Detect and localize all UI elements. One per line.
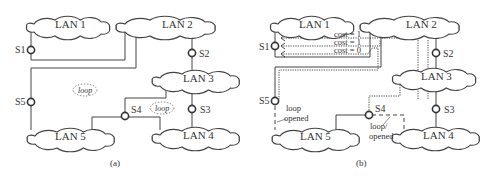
switch-s4-label-b: S4: [375, 103, 386, 114]
loop-opened-label-1b: opened: [284, 113, 309, 123]
loop-opened-label-1a: loop: [286, 103, 301, 113]
lan-2-label-b: LAN 2: [406, 18, 437, 30]
caption-a: (a): [110, 158, 120, 168]
loop-opened-label-2b: opened: [369, 131, 394, 141]
lan-2-label: LAN 2: [162, 18, 193, 30]
lan-4-label-b: LAN 4: [423, 129, 454, 141]
lan-5-label: LAN 5: [55, 130, 86, 142]
switch-s2-label: S2: [199, 48, 210, 59]
switch-s4-label: S4: [131, 104, 142, 115]
lan-3-label-b: LAN 3: [421, 70, 452, 82]
switch-s2-label-b: S2: [443, 48, 454, 59]
switch-s5-label: S5: [15, 96, 26, 107]
lan-3-label: LAN 3: [183, 72, 214, 84]
switch-s3-label: S3: [200, 104, 211, 115]
lan-1-label: LAN 1: [55, 18, 86, 30]
switch-s5-label-b: S5: [259, 95, 270, 106]
diagram-canvas: LAN 1 LAN 2 LAN 3 LAN 4 LAN 5 S1 S2 S3 S…: [0, 0, 488, 181]
switch-s3-label-b: S3: [444, 104, 455, 115]
loop-label-2: loop: [155, 104, 169, 113]
cost-label-3: cost = 0: [334, 45, 361, 55]
lan-1-label-b: LAN 1: [299, 18, 330, 30]
caption-b: (b): [356, 158, 367, 168]
loop-label-1: loop: [78, 86, 92, 95]
lan-5-label-b: LAN 5: [300, 130, 331, 142]
lan-4-label: LAN 4: [183, 129, 214, 141]
switch-s1-label-b: S1: [259, 41, 270, 52]
switch-s1-label: S1: [15, 44, 26, 55]
